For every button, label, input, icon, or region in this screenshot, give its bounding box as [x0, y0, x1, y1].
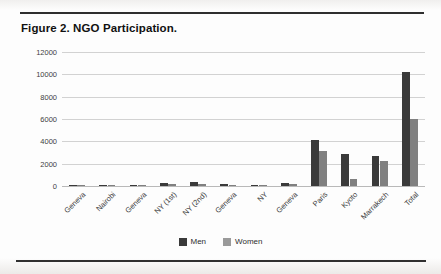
horizontal-rule-top [20, 12, 424, 14]
bar-men [372, 156, 380, 186]
bar-women [410, 119, 418, 186]
y-tick-label: 12000 [36, 48, 57, 57]
bar-women [350, 179, 358, 186]
y-tick-label: 2000 [40, 159, 57, 168]
legend-label: Women [235, 237, 262, 246]
x-tick-label: Marrakech [359, 190, 390, 221]
bar-men [341, 154, 349, 186]
bar-women [77, 185, 85, 186]
bar-chart: 020004000600080001000012000 GenevaNairob… [0, 44, 441, 259]
bar-group [183, 52, 213, 186]
y-tick-label: 0 [53, 182, 57, 191]
bar-group [365, 52, 395, 186]
y-tick-label: 8000 [40, 92, 57, 101]
axis-baseline [62, 186, 425, 187]
bar-women [259, 185, 267, 186]
chart-legend: MenWomen [0, 237, 441, 246]
bar-men [69, 185, 77, 186]
x-tick-label: Total [403, 190, 421, 208]
bar-women [138, 185, 146, 186]
bar-women [198, 184, 206, 186]
bar-women [168, 184, 176, 186]
bar-men [311, 140, 319, 186]
bar-group [395, 52, 425, 186]
bar-women [319, 151, 327, 186]
x-tick-label: NY (1st) [153, 190, 179, 216]
legend-swatch-icon [223, 238, 231, 246]
x-tick-label: Geneva [123, 190, 148, 215]
bar-group [153, 52, 183, 186]
figure-caption: Figure 2. NGO Participation. [21, 22, 177, 34]
bar-group [304, 52, 334, 186]
legend-item-women: Women [223, 237, 262, 246]
bar-women [380, 161, 388, 186]
bar-group [213, 52, 243, 186]
bar-women [108, 185, 116, 186]
bar-group [334, 52, 364, 186]
x-tick-label: Geneva [274, 190, 299, 215]
x-tick-label: NY (2nd) [181, 190, 208, 217]
x-tick-label: NY [255, 190, 269, 204]
page-top-shading [0, 0, 441, 10]
bar-men [99, 185, 107, 186]
bar-men [130, 185, 138, 186]
legend-swatch-icon [179, 238, 187, 246]
y-tick-label: 6000 [40, 115, 57, 124]
bar-group [274, 52, 304, 186]
x-tick-label: Kyoto [340, 190, 360, 210]
scanned-page: Figure 2. NGO Participation. 02000400060… [0, 0, 441, 274]
bar-men [281, 183, 289, 186]
x-tick-label: Paris [311, 190, 329, 208]
x-tick-label: Geneva [214, 190, 239, 215]
legend-label: Men [191, 237, 207, 246]
x-tick-label: Geneva [63, 190, 88, 215]
bar-group [92, 52, 122, 186]
bar-men [402, 72, 410, 186]
bar-women [229, 185, 237, 186]
bar-group [244, 52, 274, 186]
y-tick-label: 4000 [40, 137, 57, 146]
bar-group [62, 52, 92, 186]
bar-men [251, 185, 259, 186]
bar-men [220, 184, 228, 186]
legend-item-men: Men [179, 237, 207, 246]
y-tick-label: 10000 [36, 70, 57, 79]
chart-bars [62, 52, 425, 186]
bar-men [160, 183, 168, 186]
x-tick-label: Nairobi [95, 190, 118, 213]
bar-group [123, 52, 153, 186]
x-axis-tick-labels: GenevaNairobiGenevaNY (1st)NY (2nd)Genev… [62, 190, 425, 238]
bar-men [190, 182, 198, 186]
horizontal-rule-bottom [16, 260, 426, 262]
bar-women [289, 184, 297, 186]
